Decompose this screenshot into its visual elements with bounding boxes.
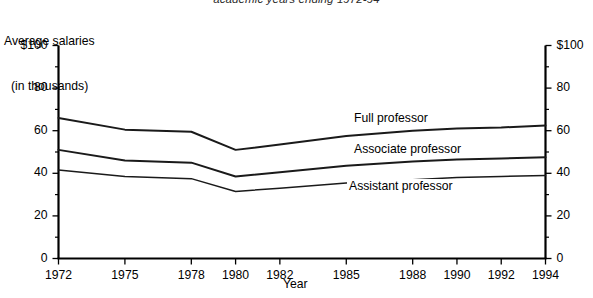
x-tick-label: 1980 <box>219 268 253 282</box>
x-tick-label: 1972 <box>42 268 76 282</box>
series-line-assistant-professor <box>59 170 546 191</box>
y-tick-label-left: 80 <box>0 80 48 94</box>
series-label-associate-professor: Associate professor <box>352 142 463 156</box>
chart-figure: academic years ending 1972-94 Average sa… <box>0 0 593 298</box>
x-tick-label: 1992 <box>484 268 518 282</box>
series-label-assistant-professor: Assistant professor <box>347 179 455 193</box>
x-tick-label: 1975 <box>108 268 142 282</box>
plot-area <box>0 0 593 298</box>
x-tick-label: 1985 <box>329 268 363 282</box>
y-tick-label-left: 60 <box>0 123 48 137</box>
y-tick-label-right: 0 <box>557 251 564 265</box>
y-tick-label-right: 40 <box>557 165 571 179</box>
y-tick-label-left: 20 <box>0 208 48 222</box>
y-tick-label-right: 20 <box>557 208 571 222</box>
series-label-full-professor: Full professor <box>352 111 430 125</box>
y-tick-label-right: 80 <box>557 80 571 94</box>
y-tick-label-left: 0 <box>0 251 48 265</box>
series-line-full-professor <box>59 118 546 150</box>
x-tick-label: 1994 <box>529 268 563 282</box>
y-tick-label-right: 60 <box>557 123 571 137</box>
x-tick-label: 1978 <box>174 268 208 282</box>
x-tick-label: 1990 <box>440 268 474 282</box>
y-tick-label-left: $100 <box>0 38 48 52</box>
y-tick-label-left: 40 <box>0 165 48 179</box>
x-axis-label: Year <box>283 277 308 291</box>
x-tick-label: 1988 <box>396 268 430 282</box>
series-line-associate-professor <box>59 150 546 177</box>
y-tick-label-right: $100 <box>557 38 584 52</box>
